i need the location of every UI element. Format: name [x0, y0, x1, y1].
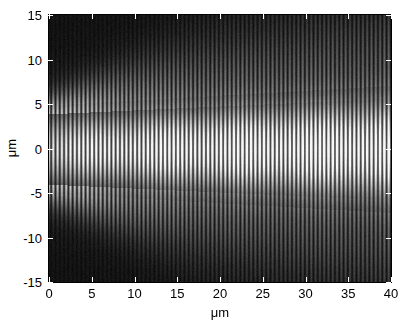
y-tick--15: [386, 282, 391, 283]
y-tick-label-5: 5: [0, 98, 42, 111]
intensity-map-figure: 0510152025303540151050-5-10-15 μm μm: [0, 0, 409, 331]
x-tick-35: [348, 14, 349, 19]
x-tick-label-15: 15: [170, 287, 184, 300]
x-tick-10: [135, 14, 136, 19]
y-tick-label--10: -10: [0, 231, 42, 244]
x-tick-25: [263, 14, 264, 19]
x-tick-15: [177, 277, 178, 282]
y-tick-15: [386, 15, 391, 16]
x-tick-label-5: 5: [88, 287, 95, 300]
x-tick-20: [220, 277, 221, 282]
y-tick--10: [48, 238, 53, 239]
x-tick-label-30: 30: [298, 287, 312, 300]
x-tick-label-25: 25: [256, 287, 270, 300]
heatmap-image: [49, 15, 392, 283]
y-tick--5: [48, 193, 53, 194]
x-tick-10: [135, 277, 136, 282]
y-tick-5: [48, 104, 53, 105]
x-tick-35: [348, 277, 349, 282]
x-tick-25: [263, 277, 264, 282]
x-tick-label-10: 10: [127, 287, 141, 300]
y-tick-label-15: 15: [0, 9, 42, 22]
y-tick--10: [386, 238, 391, 239]
y-tick--5: [386, 193, 391, 194]
y-axis-label-wrap: μm: [5, 139, 18, 157]
x-tick-label-20: 20: [213, 287, 227, 300]
y-tick--15: [48, 282, 53, 283]
y-axis-label: μm: [4, 139, 19, 157]
y-tick-label--5: -5: [0, 187, 42, 200]
x-tick-30: [306, 277, 307, 282]
plot-area: [48, 14, 392, 283]
y-tick-15: [48, 15, 53, 16]
x-tick-30: [306, 14, 307, 19]
x-axis-label: μm: [211, 306, 229, 319]
y-tick-0: [48, 149, 53, 150]
y-tick-label-10: 10: [0, 53, 42, 66]
x-tick-40: [391, 277, 392, 282]
x-tick-5: [92, 277, 93, 282]
x-tick-15: [177, 14, 178, 19]
y-tick-0: [386, 149, 391, 150]
y-tick-label--15: -15: [0, 276, 42, 289]
x-tick-label-0: 0: [45, 287, 52, 300]
x-tick-20: [220, 14, 221, 19]
x-tick-label-40: 40: [384, 287, 398, 300]
y-tick-10: [386, 60, 391, 61]
x-tick-5: [92, 14, 93, 19]
y-tick-10: [48, 60, 53, 61]
x-tick-label-35: 35: [341, 287, 355, 300]
y-tick-5: [386, 104, 391, 105]
x-tick-40: [391, 14, 392, 19]
